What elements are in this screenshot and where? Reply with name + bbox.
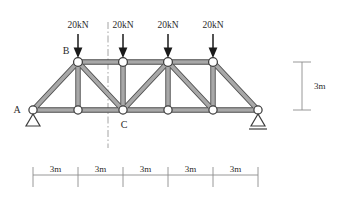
load-arrow-1	[74, 34, 83, 58]
vertical-dimension-label: 3m	[314, 81, 326, 91]
truss-members	[33, 62, 258, 110]
load-arrow-3	[164, 34, 173, 58]
load-label-2: 20kN	[112, 20, 133, 30]
horizontal-dimension-label-5: 3m	[230, 164, 242, 174]
joint-top-4	[209, 58, 218, 67]
member-fills	[33, 62, 258, 110]
load-label-4: 20kN	[202, 20, 223, 30]
node-label-a: A	[13, 104, 21, 115]
load-arrow-4	[209, 34, 218, 58]
joint-c	[119, 106, 127, 114]
joint-top-2	[119, 58, 128, 67]
horizontal-dimension-label-3: 3m	[140, 164, 152, 174]
truss-diagram-figure: 20kN 20kN 20kN 20kN A B C 3m	[0, 0, 341, 209]
roller-support-right	[249, 114, 267, 129]
joint-top-3	[164, 58, 173, 67]
horizontal-dimension-label-2: 3m	[95, 164, 107, 174]
load-arrow-2	[119, 34, 128, 58]
load-label-1: 20kN	[67, 20, 88, 30]
node-label-c: C	[121, 119, 128, 130]
vertical-dimension: 3m	[293, 62, 326, 110]
joint-bottom-5	[209, 106, 217, 114]
horizontal-dimension-chain: 3m 3m 3m 3m 3m	[33, 164, 258, 187]
joint-bottom-2	[74, 106, 82, 114]
pin-support-left	[26, 114, 40, 126]
load-labels: 20kN 20kN 20kN 20kN	[67, 20, 223, 30]
node-label-b: B	[63, 45, 70, 56]
joint-b	[74, 58, 83, 67]
horizontal-dimension-label-4: 3m	[185, 164, 197, 174]
load-arrows	[74, 34, 218, 58]
joint-bottom-4	[164, 106, 172, 114]
load-label-3: 20kN	[157, 20, 178, 30]
horizontal-dimension-label-1: 3m	[50, 164, 62, 174]
